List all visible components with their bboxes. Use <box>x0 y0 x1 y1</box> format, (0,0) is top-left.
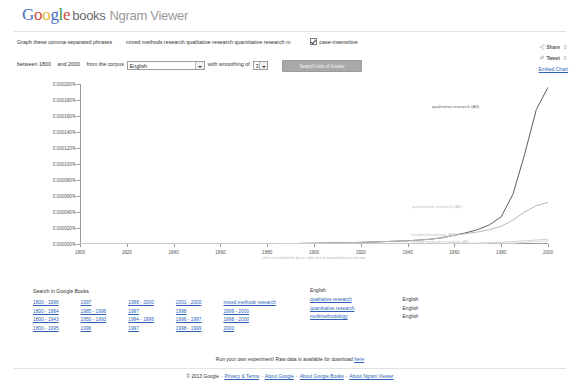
search-button[interactable]: Search lots of books <box>282 60 362 72</box>
search-in-google-books-title: Search in Google Books <box>33 288 89 294</box>
language-column: English qualitative researchEnglishquant… <box>310 288 418 323</box>
series-label[interactable]: mixed methods research (All) <box>412 239 469 244</box>
copyright-text: © 2013 Google <box>187 374 219 379</box>
y-tick-mark <box>77 148 80 149</box>
footer-link[interactable]: Privacy & Terms <box>225 374 260 379</box>
year-range-link[interactable]: 1999 - 2000 <box>223 309 249 314</box>
y-tick-label: 0.000040% <box>53 210 76 215</box>
y-tick-label: 0.000100% <box>53 162 76 167</box>
y-tick-mark <box>77 116 80 117</box>
corpus-select[interactable]: English <box>127 61 205 70</box>
smoothing-select[interactable]: 3 <box>253 61 268 70</box>
year-range-link[interactable]: 1997 <box>128 309 139 314</box>
year-range-link[interactable]: 2001 - 2000 <box>176 300 202 305</box>
series-line[interactable] <box>80 202 548 244</box>
footer-link[interactable]: About Ngram Viewer <box>349 374 393 379</box>
language-table: qualitative researchEnglishquantitative … <box>310 297 418 323</box>
x-tick-label: 2000 <box>543 250 553 255</box>
table-cell: 1994 - 1996 <box>128 317 176 326</box>
year-range-link[interactable]: 1800 - 1943 <box>33 317 59 322</box>
table-row: 1800 - 1995199619971998 - 19992000 <box>33 326 276 335</box>
series-label[interactable]: quantitative research (All) <box>412 204 462 209</box>
year-end-input[interactable] <box>68 61 85 67</box>
series-line[interactable] <box>80 87 548 244</box>
phrase-link[interactable]: quantitative research <box>310 306 355 311</box>
tweet-button[interactable]: Tweet 0 <box>539 55 568 61</box>
table-cell: 1800 - 1943 <box>33 317 81 326</box>
footer-divider <box>14 368 566 369</box>
year-range-link[interactable]: 1996 <box>81 326 92 331</box>
table-row: multimethodologyEnglish <box>310 314 418 323</box>
footer-link[interactable]: About Google <box>265 374 294 379</box>
year-range-link[interactable]: 1800 - 1995 <box>33 326 59 331</box>
download-here-link[interactable]: here <box>354 356 364 362</box>
year-range-link[interactable]: 1996 - 1997 <box>176 317 202 322</box>
table-cell: 1998 - 2000 <box>128 300 176 309</box>
year-range-link[interactable]: 1998 <box>176 309 187 314</box>
footer-separator: - <box>221 374 223 379</box>
series-label[interactable]: qualitative research (All) <box>432 104 479 109</box>
language-name: English <box>355 314 419 323</box>
table-cell: 1985 - 1996 <box>81 309 129 318</box>
table-cell: 1998 - 1999 <box>176 326 224 335</box>
table-cell: 1800 - 1995 <box>33 326 81 335</box>
x-tick-label: 1940 <box>402 250 412 255</box>
y-tick-mark <box>77 228 80 229</box>
x-tick-label: 1800 <box>75 250 85 255</box>
site-logo[interactable]: GooglebooksNgram Viewer <box>22 5 188 25</box>
table-cell: 1800 - 1984 <box>33 309 81 318</box>
phrase-link[interactable]: multimethodology <box>310 314 348 319</box>
y-tick-mark <box>77 100 80 101</box>
case-insensitive-checkbox-icon[interactable] <box>310 38 317 45</box>
year-start-input[interactable] <box>39 61 56 67</box>
header-divider <box>14 31 566 32</box>
phrase-link[interactable]: qualitative research <box>310 297 352 302</box>
year-range-link[interactable]: 1998 - 1999 <box>176 326 202 331</box>
table-cell: 2000 <box>223 326 276 335</box>
tweet-label: Tweet <box>547 56 560 61</box>
y-tick-mark <box>77 196 80 197</box>
year-range-link[interactable]: 1998 - 2000 <box>223 317 249 322</box>
query-row: Graph these comma-separated phrases case… <box>17 38 358 45</box>
year-range-link[interactable]: mixed methods research <box>223 300 276 305</box>
table-row: quantitative researchEnglish <box>310 306 418 315</box>
x-tick-label: 1920 <box>356 250 366 255</box>
year-range-link[interactable]: 2000 <box>223 326 234 331</box>
google-wordmark: Google <box>22 5 70 24</box>
footer-links: © 2013 Google-Privacy & Terms-About Goog… <box>0 374 580 379</box>
year-range-link[interactable]: 1997 <box>81 300 92 305</box>
footer-link[interactable]: About Google Books <box>300 374 344 379</box>
embed-chart-link[interactable]: Embed Chart <box>539 66 568 72</box>
footer-separator: - <box>261 374 263 379</box>
year-range-link[interactable]: 1800 - 1996 <box>33 300 59 305</box>
table-cell: quantitative research <box>310 306 355 315</box>
year-range-link[interactable]: 1997 <box>128 326 139 331</box>
x-tick-mark <box>174 244 175 247</box>
year-range-link[interactable]: 1994 - 1996 <box>128 317 154 322</box>
experiment-note: Run your own experiment! Raw data is ava… <box>0 356 580 362</box>
year-range-link[interactable]: 1998 - 2000 <box>128 300 154 305</box>
share-count: 0 <box>564 45 567 50</box>
table-row: qualitative researchEnglish <box>310 297 418 306</box>
x-tick-label: 1900 <box>309 250 319 255</box>
twitter-icon <box>539 55 545 61</box>
case-insensitive-toggle[interactable]: case-insensitive <box>310 38 357 45</box>
ngram-chart[interactable]: 0.000200%0.000180%0.000160%0.000140%0.00… <box>14 84 566 269</box>
corpus-selected-value: English <box>130 63 147 69</box>
year-range-link[interactable]: 1950 - 1993 <box>81 317 107 322</box>
y-tick-label: 0.000020% <box>53 226 76 231</box>
year-range-link[interactable]: 1800 - 1984 <box>33 309 59 314</box>
table-row: 1800 - 19841985 - 1996199719981999 - 200… <box>33 309 276 318</box>
x-tick-mark <box>314 244 315 247</box>
series-label[interactable]: multimethodology (All) <box>412 232 455 237</box>
x-tick-label: 1880 <box>262 250 272 255</box>
chart-note: click on line/label for focus, right cli… <box>80 256 548 260</box>
table-cell: 1950 - 1993 <box>81 317 129 326</box>
controls-row: between and from the corpusEnglishwith s… <box>17 60 362 72</box>
phrases-input[interactable] <box>126 39 301 45</box>
table-cell: qualitative research <box>310 297 355 306</box>
chevron-down-icon[interactable] <box>259 62 267 69</box>
chevron-down-icon[interactable] <box>195 62 204 69</box>
year-range-link[interactable]: 1985 - 1996 <box>81 309 107 314</box>
share-button[interactable]: Share 0 <box>539 44 568 50</box>
